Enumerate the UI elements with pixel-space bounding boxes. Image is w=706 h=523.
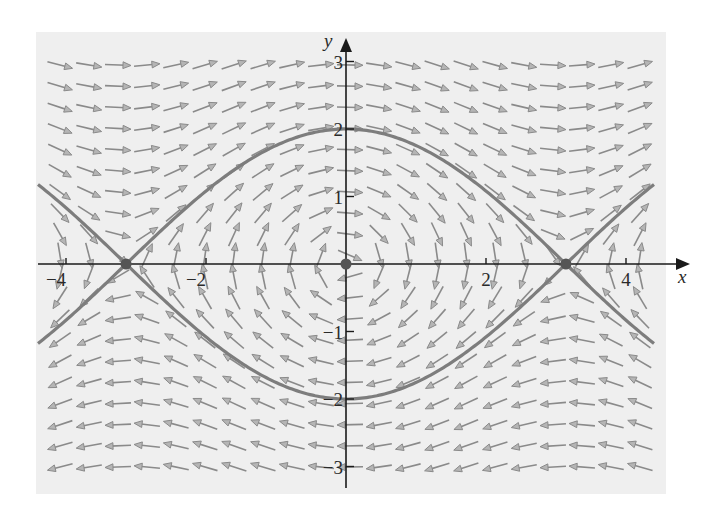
saddle-point-icon: [121, 259, 132, 270]
y-axis-label: y: [322, 30, 333, 51]
y-tick-label: −2: [323, 389, 343, 410]
saddle-point-icon: [560, 259, 571, 270]
phase-portrait-chart: −4−224321−1−2−3 x y: [0, 0, 706, 523]
y-tick-label: −1: [323, 322, 343, 343]
y-tick-label: 1: [334, 187, 344, 208]
y-tick-label: −3: [323, 457, 343, 478]
x-tick-label: 4: [621, 269, 631, 290]
x-axis-label: x: [677, 266, 687, 287]
y-tick-label: 3: [334, 52, 344, 73]
y-tick-label: 2: [334, 119, 344, 140]
center-point-icon: [341, 259, 352, 270]
x-tick-label: −2: [186, 269, 206, 290]
x-tick-label: 2: [481, 269, 491, 290]
x-tick-label: −4: [46, 269, 67, 290]
